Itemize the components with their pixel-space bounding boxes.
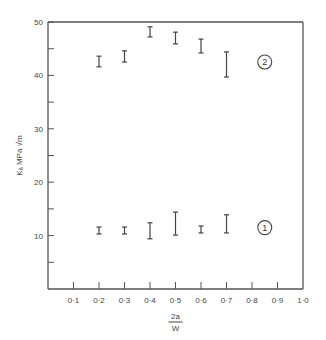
error-bar [173, 212, 178, 235]
x-axis-ticks: 0·10·20·30·40·50·60·70·80·91·0 [68, 282, 310, 305]
x-tick-label: 1·0 [297, 296, 309, 305]
error-bar [148, 27, 153, 37]
error-bar [97, 56, 102, 67]
error-bar [122, 227, 127, 234]
y-tick-label: 30 [34, 125, 43, 134]
chart: 1020304050 0·10·20·30·40·50·60·70·80·91·… [0, 0, 326, 340]
error-bar [97, 227, 102, 234]
y-tick-label: 20 [34, 178, 43, 187]
error-bar [199, 226, 204, 233]
y-tick-label: 50 [34, 18, 43, 27]
data-series: 21 [97, 27, 272, 239]
x-axis-label-numerator: 2a [171, 312, 180, 321]
x-tick-label: 0·5 [170, 296, 182, 305]
error-bar [148, 223, 153, 239]
x-tick-label: 0·4 [144, 296, 156, 305]
x-tick-label: 0·7 [221, 296, 233, 305]
error-bar [173, 32, 178, 44]
series-2: 2 [97, 27, 272, 77]
x-tick-label: 0·1 [68, 296, 80, 305]
y-axis-ticks: 1020304050 [34, 18, 54, 262]
x-tick-label: 0·6 [195, 296, 207, 305]
x-tick-label: 0·9 [272, 296, 284, 305]
y-tick-label: 40 [34, 71, 43, 80]
error-bar [122, 51, 127, 62]
series-label: 2 [262, 57, 267, 67]
series-label: 1 [262, 223, 267, 233]
x-tick-label: 0·8 [246, 296, 258, 305]
error-bar [224, 52, 229, 77]
y-tick-label: 10 [34, 232, 43, 241]
series-1: 1 [97, 212, 272, 239]
x-tick-label: 0·3 [119, 296, 131, 305]
x-axis-label-denominator: W [172, 324, 180, 333]
x-tick-label: 0·2 [93, 296, 105, 305]
error-bar [224, 215, 229, 233]
y-axis-label: Kₐ MPa √m [15, 135, 24, 176]
error-bar [199, 39, 204, 53]
